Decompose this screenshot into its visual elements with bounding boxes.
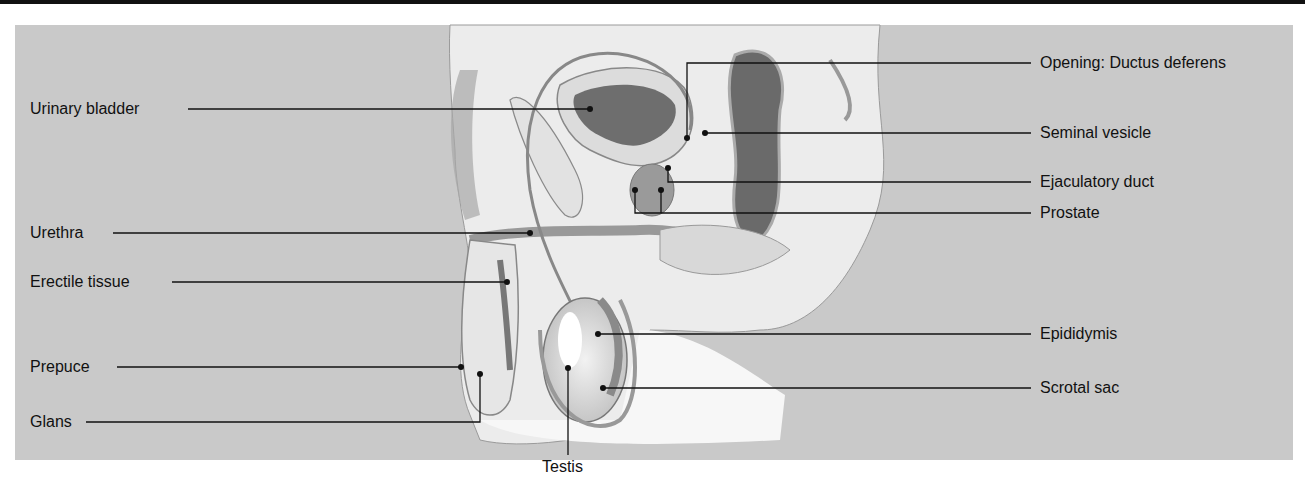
label-opening-ductus-deferens: Opening: Ductus deferens <box>1040 54 1226 72</box>
label-testis: Testis <box>542 458 583 476</box>
rectum <box>729 51 782 241</box>
dot-seminal-vesicle <box>702 130 708 136</box>
label-glans: Glans <box>30 413 72 431</box>
dot-prostate-2 <box>658 187 664 193</box>
label-urethra: Urethra <box>30 224 83 242</box>
dot-epididymis <box>595 331 601 337</box>
label-scrotal-sac: Scrotal sac <box>1040 379 1119 397</box>
dot-testis <box>565 365 571 371</box>
label-urinary-bladder: Urinary bladder <box>30 100 139 118</box>
dot-opening-ductus-deferens <box>684 135 690 141</box>
dot-urinary-bladder <box>587 106 593 112</box>
dot-erectile-tissue <box>504 279 510 285</box>
label-prepuce: Prepuce <box>30 358 90 376</box>
dot-prepuce <box>458 364 464 370</box>
label-erectile-tissue: Erectile tissue <box>30 273 130 291</box>
dot-scrotal-sac <box>600 385 606 391</box>
dot-glans <box>477 371 483 377</box>
leader-glans <box>86 374 480 422</box>
dot-ejaculatory-duct <box>665 165 671 171</box>
dot-urethra <box>527 230 533 236</box>
label-ejaculatory-duct: Ejaculatory duct <box>1040 173 1154 191</box>
label-epididymis: Epididymis <box>1040 325 1117 343</box>
label-seminal-vesicle: Seminal vesicle <box>1040 124 1151 142</box>
label-prostate: Prostate <box>1040 204 1100 222</box>
anatomy-illustration <box>0 0 1305 495</box>
dot-prostate-1 <box>632 187 638 193</box>
